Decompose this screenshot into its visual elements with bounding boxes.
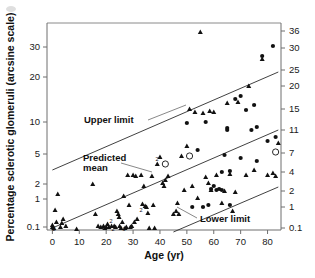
- data-point-circle: [204, 120, 208, 124]
- x-tick-label: 50: [182, 236, 193, 247]
- data-point-circle: [244, 108, 248, 112]
- data-point-circle: [252, 103, 256, 107]
- data-point-circle: [190, 205, 194, 209]
- x-tick-label: 0: [50, 236, 55, 247]
- y-tick-label-right: 25: [289, 64, 300, 75]
- x-axis-title: Age (yr): [144, 249, 184, 261]
- data-point-ring: [162, 161, 168, 167]
- y-tick-label-right: 4: [289, 166, 294, 177]
- x-tick-label: 30: [128, 236, 139, 247]
- data-point-circle: [255, 159, 259, 163]
- scan-artifact-speck: [6, 6, 16, 12]
- y-tick-label-right: 7: [289, 147, 294, 158]
- x-tick-label: 60: [208, 236, 219, 247]
- scatter-plot-figure: 01020304050607080 0.1125102030 0.1124711…: [0, 0, 315, 278]
- data-point-circle: [265, 139, 269, 143]
- lower-limit-label: Lower limit: [200, 213, 251, 224]
- data-point-circle: [228, 203, 232, 207]
- data-point-circle: [220, 188, 224, 192]
- y-tick-label-left: 30: [29, 41, 40, 52]
- y-tick-label-left: 5: [35, 148, 40, 159]
- y-tick-label-right: 11: [289, 124, 299, 135]
- x-tick-label: 40: [155, 236, 166, 247]
- y-tick-label-right: 15: [289, 103, 300, 114]
- data-point-ring: [186, 153, 192, 159]
- data-point-circle: [233, 97, 237, 101]
- multiplicity-label: 2: [52, 226, 55, 232]
- multiplicity-label: 2: [155, 156, 158, 162]
- y-tick-label-right: 20: [289, 80, 300, 91]
- data-point-circle: [206, 203, 210, 207]
- x-tick-label: 70: [235, 236, 246, 247]
- chart-canvas: 01020304050607080 0.1125102030 0.1124711…: [0, 0, 315, 278]
- y-tick-label-right: 1: [289, 201, 294, 212]
- data-point-circle: [249, 128, 253, 132]
- y-tick-label-left: 0.1: [27, 221, 40, 232]
- y-tick-label-left: 10: [29, 116, 40, 127]
- upper-limit-label: Upper limit: [84, 114, 134, 125]
- data-point-circle: [228, 169, 232, 173]
- multiplicity-label: 2: [111, 226, 114, 232]
- y-tick-label-right: 36: [289, 25, 300, 36]
- multiplicity-label: 2: [139, 207, 142, 213]
- multiplicity-label: 2: [109, 218, 112, 224]
- data-point-circle: [239, 94, 243, 98]
- data-point-circle: [260, 54, 264, 58]
- data-point-circle: [220, 170, 224, 174]
- data-point-circle: [185, 121, 189, 125]
- y-tick-label-right: 2: [289, 185, 294, 196]
- data-point-circle: [201, 205, 205, 209]
- data-point-ring: [273, 149, 279, 155]
- data-point-circle: [274, 135, 278, 139]
- data-point-circle: [222, 153, 226, 157]
- y-tick-label-right: 30: [289, 42, 300, 53]
- y-axis-title: Percentage sclerotic glomeruli (arcsine …: [4, 13, 16, 242]
- y-tick-label-left: 20: [29, 71, 40, 82]
- data-point-circle: [196, 148, 200, 152]
- data-point-circle: [212, 184, 216, 188]
- x-tick-label: 80: [262, 236, 273, 247]
- data-point-circle: [255, 125, 259, 129]
- y-tick-label-right: 0.1: [289, 222, 302, 233]
- x-tick-label: 20: [101, 236, 112, 247]
- x-tick-label: 10: [74, 236, 85, 247]
- y-tick-label-left: 2: [35, 178, 40, 189]
- predicted-mean-label-line2: mean: [83, 162, 108, 173]
- data-point-circle: [239, 156, 243, 160]
- multiplicity-label: 3: [122, 226, 125, 232]
- data-point-circle: [225, 128, 229, 132]
- y-tick-label-left: 1: [35, 193, 40, 204]
- data-point-circle: [271, 44, 275, 48]
